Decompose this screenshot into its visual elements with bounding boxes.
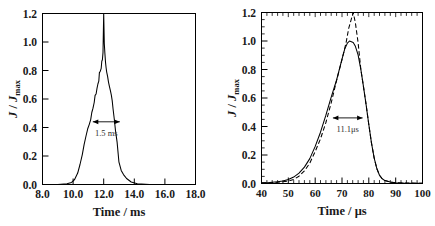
figure-container: 0.0 0.2 0.4 0.6 0.8 1.0 1.2 8.0 10.0 12.… — [0, 0, 435, 226]
y-tick-label: 1.2 — [23, 8, 38, 20]
fwhm-annotation-label: 1.5 ms — [95, 128, 118, 138]
data-curve-simulated-pulse — [262, 13, 423, 184]
x-axis-title: Time / μs — [317, 204, 366, 218]
fwhm-annotation: 11.1μs — [333, 116, 363, 134]
svg-text:J / Jmax: J / Jmax — [225, 78, 241, 118]
y-axis-title-subscript: max — [231, 78, 241, 94]
fwhm-annotation: 1.5 ms — [93, 119, 120, 137]
x-tick-label: 16.0 — [155, 188, 175, 200]
y-tick-label: 1.0 — [23, 36, 38, 48]
data-curve-current-pulse — [43, 14, 196, 185]
x-tick-label: 40 — [256, 187, 268, 199]
fwhm-arrow-head-left — [333, 116, 339, 121]
y-tick-label: 1.0 — [242, 35, 257, 47]
y-tick-label: 0.0 — [242, 178, 257, 190]
y-tick-label: 0.8 — [23, 65, 38, 77]
y-tick-label: 1.2 — [242, 7, 257, 19]
left-plot-svg: 0.0 0.2 0.4 0.6 0.8 1.0 1.2 8.0 10.0 12.… — [0, 0, 218, 226]
x-tick-label: 70 — [337, 187, 349, 199]
x-tick-label: 50 — [283, 187, 295, 199]
y-axis-ticks — [262, 13, 268, 184]
chart-panel-right: 0.0 0.2 0.4 0.6 0.8 1.0 1.2 40 50 60 70 … — [217, 0, 435, 226]
y-tick-label: 0.6 — [23, 93, 38, 105]
y-axis-tick-labels: 0.0 0.2 0.4 0.6 0.8 1.0 1.2 — [23, 8, 38, 191]
svg-text:J / Jmax: J / Jmax — [6, 79, 22, 119]
fwhm-arrow-head-right — [114, 119, 120, 124]
x-tick-label: 100 — [414, 187, 431, 199]
x-tick-label: 80 — [363, 187, 375, 199]
x-axis-tick-labels: 40 50 60 70 80 90 100 — [256, 187, 431, 199]
y-tick-label: 0.6 — [242, 92, 257, 104]
x-axis-title: Time / ms — [93, 205, 146, 219]
y-axis-title: J / Jmax — [225, 78, 241, 118]
x-tick-label: 14.0 — [124, 188, 144, 200]
x-tick-label: 18.0 — [185, 188, 205, 200]
fwhm-arrow-head-right — [357, 116, 363, 121]
x-tick-label: 60 — [310, 187, 322, 199]
y-tick-label: 0.8 — [242, 64, 257, 76]
plot-frame — [262, 13, 423, 184]
x-axis-tick-labels: 8.0 10.0 12.0 14.0 16.0 18.0 — [35, 188, 206, 200]
y-axis-tick-labels: 0.0 0.2 0.4 0.6 0.8 1.0 1.2 — [242, 7, 257, 190]
x-tick-label: 8.0 — [35, 188, 50, 200]
y-tick-label: 0.2 — [242, 149, 257, 161]
x-tick-label: 10.0 — [63, 188, 83, 200]
fwhm-annotation-label: 11.1μs — [336, 124, 358, 134]
y-axis-title-separator: / — [225, 101, 239, 111]
top-axis-minor-ticks — [267, 13, 417, 18]
fwhm-arrow-head-left — [93, 119, 99, 124]
data-curve-measured-pulse — [262, 41, 423, 183]
y-axis-title-separator: / — [6, 102, 20, 112]
y-axis-title-subscript: max — [12, 79, 22, 95]
chart-panel-left: 0.0 0.2 0.4 0.6 0.8 1.0 1.2 8.0 10.0 12.… — [0, 0, 218, 226]
y-axis-ticks — [43, 14, 49, 185]
x-tick-label: 12.0 — [94, 188, 114, 200]
y-tick-label: 0.2 — [23, 150, 38, 162]
x-tick-label: 90 — [390, 187, 402, 199]
y-tick-label: 0.4 — [23, 122, 38, 134]
y-tick-label: 0.4 — [242, 121, 257, 133]
right-plot-svg: 0.0 0.2 0.4 0.6 0.8 1.0 1.2 40 50 60 70 … — [217, 0, 435, 226]
y-axis-title: J / Jmax — [6, 79, 22, 119]
